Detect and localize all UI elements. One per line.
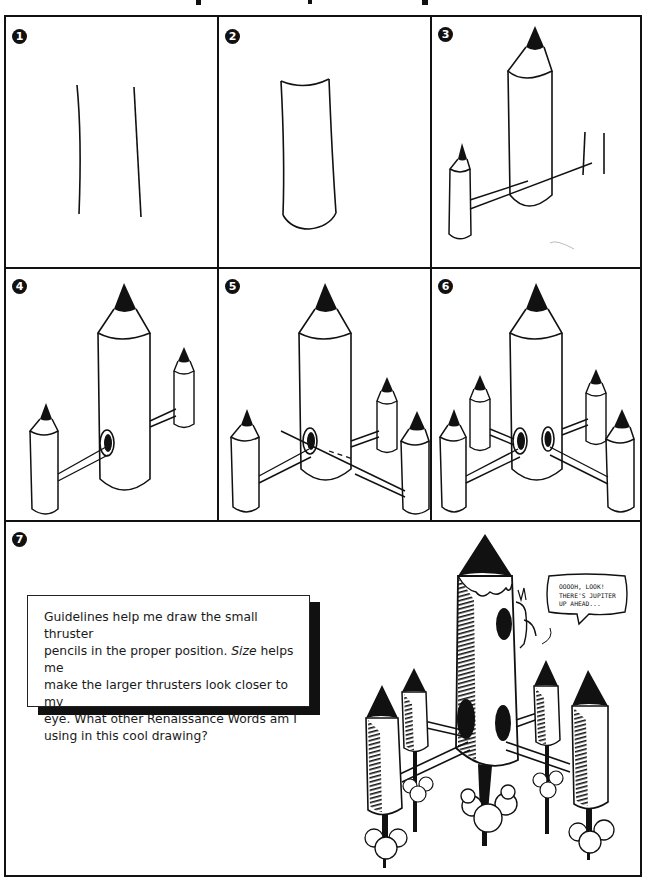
speech-line: There's Jupiter <box>559 592 621 601</box>
caption-line: Guidelines help me draw the small thrust… <box>44 609 299 643</box>
step-panel-6: 6 <box>432 269 640 520</box>
title-fragment <box>190 0 460 6</box>
two-lines-drawing <box>6 17 217 267</box>
rocket-four-thrusters-drawing <box>432 269 640 520</box>
step-panel-5: 5 <box>219 269 430 520</box>
rocket-three-thrusters-drawing <box>219 269 430 520</box>
caption-line: eye. What other Renaissance Words am I <box>44 711 299 728</box>
step-panel-1: 1 <box>6 17 217 267</box>
step-panel-4: 4 <box>6 269 217 520</box>
step-panel-2: 2 <box>219 17 430 267</box>
caption-box: Guidelines help me draw the small thrust… <box>27 595 310 707</box>
cylinder-drawing <box>219 17 430 267</box>
caption-line: pencils in the proper position. Size hel… <box>44 643 299 677</box>
caption-emphasis: Size <box>231 644 256 658</box>
caption-text: pencils in the proper position. <box>44 644 231 658</box>
caption-line: make the larger thrusters look closer to… <box>44 677 299 711</box>
caption-line: using in this cool drawing? <box>44 728 299 745</box>
drawing-worksheet-page: 1 2 3 <box>0 0 650 878</box>
rocket-two-thrusters-drawing <box>6 269 217 520</box>
step-number-badge: 7 <box>12 532 27 547</box>
pencil-with-guidelines-drawing <box>432 17 640 267</box>
speech-bubble: Ooooh, Look! There's Jupiter up ahead... <box>551 577 621 617</box>
speech-line: Ooooh, Look! <box>559 583 621 592</box>
speech-line: up ahead... <box>559 600 621 609</box>
step-panel-3: 3 <box>432 17 640 267</box>
